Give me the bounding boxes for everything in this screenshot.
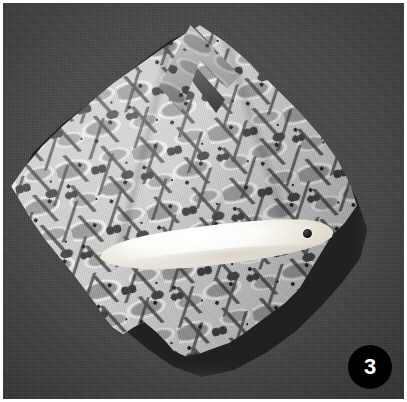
- implement-highlight: [121, 220, 283, 256]
- figure-number-badge: 3: [348, 345, 392, 389]
- figure-3: 3: [0, 0, 407, 402]
- photograph: 3: [3, 3, 404, 399]
- figure-number-label: 3: [364, 356, 376, 378]
